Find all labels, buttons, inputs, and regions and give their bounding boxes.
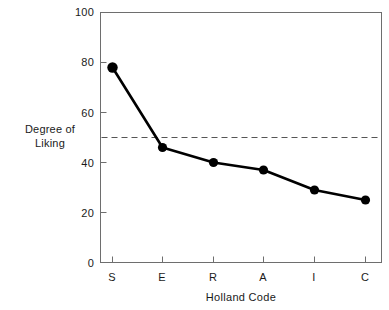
y-tick-label-40: 40 (64, 158, 94, 169)
plot-area-frame (100, 12, 382, 263)
y-tick-label-0: 0 (64, 258, 94, 269)
chart-figure: 100 80 60 40 20 0 S E R A I C Degree of … (0, 0, 389, 310)
y-tick-label-100: 100 (64, 7, 94, 18)
y-tick-label-60: 60 (64, 108, 94, 119)
x-tick-label-c: C (350, 272, 380, 283)
x-tick-label-s: S (97, 272, 127, 283)
x-tick-label-e: E (147, 272, 177, 283)
x-tick-label-a: A (248, 272, 278, 283)
x-tick-label-r: R (198, 272, 228, 283)
y-tick-label-80: 80 (64, 57, 94, 68)
x-tick-label-i: I (299, 272, 329, 283)
x-axis-title: Holland Code (100, 291, 382, 303)
y-tick-label-20: 20 (64, 208, 94, 219)
y-axis-title-line-2: Liking (8, 136, 92, 150)
y-axis-title-line-1: Degree of (8, 122, 92, 136)
y-axis-title: Degree of Liking (8, 122, 92, 150)
